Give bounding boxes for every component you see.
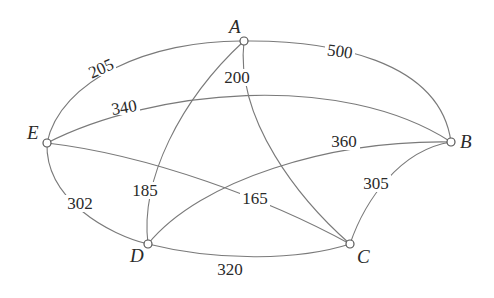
edge-A-E [47, 41, 244, 143]
weight-label-B-C: 305 [361, 174, 391, 193]
node-label-E: E [26, 122, 39, 143]
node-label-A: A [227, 16, 241, 37]
edge-B-C [350, 142, 451, 244]
weight-label-D-B: 360 [328, 132, 360, 151]
svg-text:185: 185 [132, 181, 158, 200]
svg-text:500: 500 [326, 40, 354, 62]
svg-text:305: 305 [363, 174, 389, 193]
svg-text:360: 360 [331, 132, 357, 151]
weight-label-E-C: 165 [240, 189, 270, 208]
weight-label-A-B: 500 [325, 40, 355, 62]
weight-label-E-D: 302 [64, 194, 96, 213]
svg-text:340: 340 [110, 96, 138, 119]
svg-text:302: 302 [67, 194, 93, 213]
weight-label-A-C: 200 [222, 68, 252, 87]
graph-diagram: 205 500 200 185 340 165 302 360 320 305 [0, 0, 494, 298]
weight-label-A-E: 205 [86, 55, 117, 83]
svg-text:320: 320 [217, 260, 243, 279]
node-label-D: D [129, 245, 144, 266]
weight-label-E-B: 340 [108, 96, 140, 119]
node-label-B: B [460, 131, 472, 152]
svg-text:200: 200 [224, 68, 250, 87]
edge-D-B [148, 142, 451, 244]
weight-label-A-D: 185 [130, 181, 160, 200]
edge-E-B [47, 95, 451, 143]
node-A [240, 37, 248, 45]
node-C [346, 240, 354, 248]
node-B [447, 138, 455, 146]
svg-text:165: 165 [242, 189, 268, 208]
edge-D-C [148, 244, 350, 257]
node-label-C: C [357, 246, 370, 267]
svg-text:205: 205 [86, 55, 117, 83]
node-E [43, 139, 51, 147]
node-D [144, 240, 152, 248]
weight-label-D-C: 320 [217, 260, 243, 279]
